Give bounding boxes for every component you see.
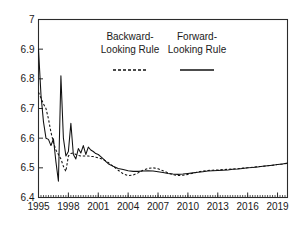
x-major-ticks	[39, 193, 278, 198]
series-backward-looking-rule-line	[39, 92, 288, 175]
x-tick-label-2013: 2013	[207, 201, 230, 212]
y-tick-label-6.9: 6.9	[21, 44, 35, 55]
x-tick-label-1998: 1998	[57, 201, 80, 212]
x-tick-label-2010: 2010	[177, 201, 200, 212]
y-tick-label-6.7: 6.7	[21, 103, 35, 114]
line-chart: 6.46.56.66.76.86.97 19951998200120042007…	[0, 0, 305, 230]
legend-entry-0-line1: Backward-	[106, 31, 153, 42]
y-tick-label-7: 7	[29, 14, 35, 25]
y-tick-label-6.8: 6.8	[21, 73, 35, 84]
legend-entry-1-line2: Looking Rule	[168, 44, 227, 55]
legend-entry-0-line2: Looking Rule	[101, 44, 160, 55]
x-tick-label-2004: 2004	[117, 201, 140, 212]
x-tick-label-1995: 1995	[27, 201, 50, 212]
legend-entry-1-line1: Forward-	[177, 31, 217, 42]
y-tick-label-6.6: 6.6	[21, 133, 35, 144]
series-forward-looking-rule-line	[39, 49, 288, 181]
x-tick-label-2019: 2019	[266, 201, 289, 212]
y-axis-tick-labels: 6.46.56.66.76.86.97	[21, 14, 35, 203]
chart-container: 6.46.56.66.76.86.97 19951998200120042007…	[0, 0, 305, 230]
x-tick-label-2016: 2016	[237, 201, 260, 212]
x-tick-label-2001: 2001	[87, 201, 110, 212]
x-axis-tick-labels: 199519982001200420072010201320162019	[27, 201, 289, 212]
x-tick-label-2007: 2007	[147, 201, 170, 212]
y-tick-label-6.5: 6.5	[21, 162, 35, 173]
chart-legend: Backward- Looking Rule Forward- Looking …	[101, 31, 227, 70]
